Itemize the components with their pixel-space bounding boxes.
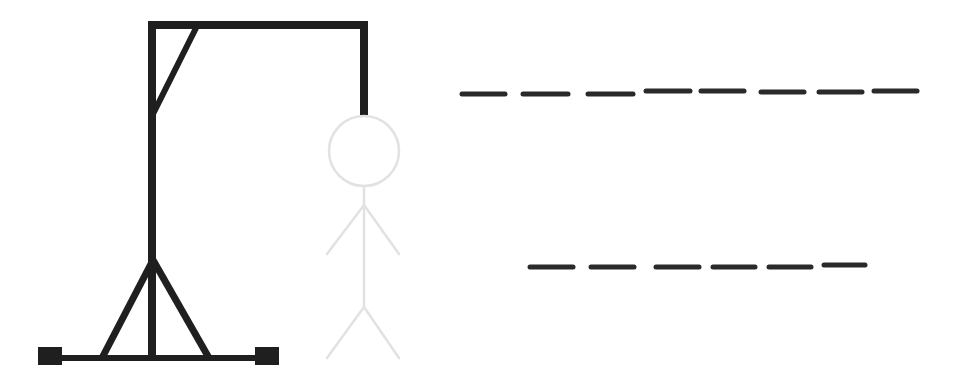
gallows-right-strut xyxy=(153,260,209,358)
gallows-base-bar xyxy=(50,355,268,361)
gallows-right-foot xyxy=(255,347,279,365)
word-row-2 xyxy=(530,265,865,267)
gallows-top-beam xyxy=(148,21,368,29)
gallows-rope xyxy=(360,21,368,115)
hangman-board xyxy=(0,0,966,365)
gallows-left-foot xyxy=(38,347,62,365)
figure-left-arm xyxy=(327,205,364,254)
gallows xyxy=(38,21,368,365)
figure-head xyxy=(329,116,399,186)
gallows-brace xyxy=(153,26,197,114)
gallows-left-strut xyxy=(102,260,153,358)
word-row-1 xyxy=(462,91,917,94)
figure-right-leg xyxy=(364,307,399,358)
gallows-post xyxy=(148,21,156,359)
figure-right-arm xyxy=(364,205,399,254)
figure-left-leg xyxy=(327,307,364,358)
hangman-figure xyxy=(327,116,399,358)
hangman-canvas xyxy=(0,0,966,365)
